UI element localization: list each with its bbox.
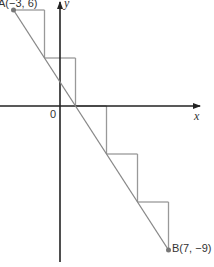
y-axis-label: y xyxy=(63,0,70,10)
diagram-canvas: A(−3, 6) B(7, −9) 0 x y xyxy=(0,0,214,267)
x-axis-label: x xyxy=(193,109,200,123)
point-b-label: B(7, −9) xyxy=(172,242,211,254)
line-ab xyxy=(14,10,169,250)
point-a-label: A(−3, 6) xyxy=(0,0,37,9)
point-b xyxy=(166,248,171,253)
origin-label: 0 xyxy=(50,108,56,120)
